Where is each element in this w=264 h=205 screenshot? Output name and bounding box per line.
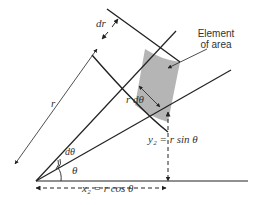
- dr-arrow-out: [112, 19, 118, 27]
- label-element-line1: Element: [198, 28, 235, 39]
- polar-area-diagram: dr r r dθ dθ θ Element of area y₂ = r si…: [0, 0, 264, 205]
- label-dtheta: dθ: [65, 146, 75, 157]
- label-r: r: [51, 97, 56, 109]
- label-dr: dr: [96, 17, 107, 29]
- label-theta: θ: [72, 164, 78, 176]
- label-element-line2: of area: [200, 39, 232, 50]
- theta-angle-arc: [58, 168, 61, 181]
- r-dimension-arrow: [15, 49, 97, 164]
- lower-ray: [36, 70, 231, 181]
- label-x2: x₂ = r cos θ: [81, 182, 134, 194]
- label-y2: y₂ = r sin θ: [147, 133, 198, 145]
- element-pointer: [168, 49, 207, 68]
- outer-arc: [107, 9, 180, 62]
- element-of-area-shape: [135, 49, 180, 122]
- dr-arrow-in: [102, 32, 108, 39]
- label-r-dtheta: r dθ: [126, 93, 145, 105]
